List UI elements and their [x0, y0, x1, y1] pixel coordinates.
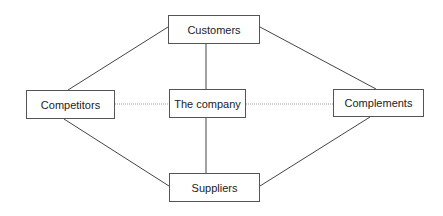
- edge-customers-competitors: [68, 27, 168, 90]
- edge-customers-complements: [260, 27, 376, 89]
- edge-suppliers-competitors: [64, 119, 169, 186]
- node-label: Competitors: [41, 99, 100, 111]
- node-label: Complements: [345, 97, 413, 109]
- node-company: The company: [169, 89, 246, 118]
- node-complements: Complements: [333, 89, 424, 117]
- node-label: Customers: [187, 24, 240, 36]
- node-label: Suppliers: [192, 182, 238, 194]
- node-suppliers: Suppliers: [169, 173, 260, 202]
- node-competitors: Competitors: [26, 90, 115, 119]
- node-customers: Customers: [168, 15, 260, 44]
- edge-suppliers-complements: [260, 117, 370, 186]
- node-label: The company: [174, 98, 241, 110]
